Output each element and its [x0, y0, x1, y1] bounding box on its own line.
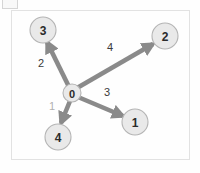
edge-0-4 — [61, 101, 70, 123]
graph-node-1[interactable]: 1 — [122, 109, 148, 135]
edge-0-1 — [78, 97, 123, 116]
edge-weight-0-3: 2 — [38, 57, 44, 69]
node-label-3: 3 — [40, 24, 47, 38]
node-label-1: 1 — [132, 116, 139, 130]
node-label-2: 2 — [162, 30, 169, 44]
edge-weight-0-1: 3 — [104, 86, 110, 98]
diagram-screenshot: 01234 2431 — [0, 0, 200, 173]
node-label-4: 4 — [55, 131, 62, 145]
nodes-layer: 01234 — [30, 17, 178, 150]
graph-node-2[interactable]: 2 — [152, 23, 178, 49]
edge-0-2 — [77, 44, 153, 88]
node-label-0: 0 — [69, 88, 75, 100]
graph-node-0[interactable]: 0 — [63, 84, 81, 102]
graph-canvas: 01234 2431 — [0, 0, 200, 173]
edge-weight-0-4: 1 — [49, 100, 55, 112]
graph-node-3[interactable]: 3 — [30, 17, 56, 43]
edge-weight-0-2: 4 — [107, 41, 113, 53]
graph-node-4[interactable]: 4 — [45, 124, 71, 150]
